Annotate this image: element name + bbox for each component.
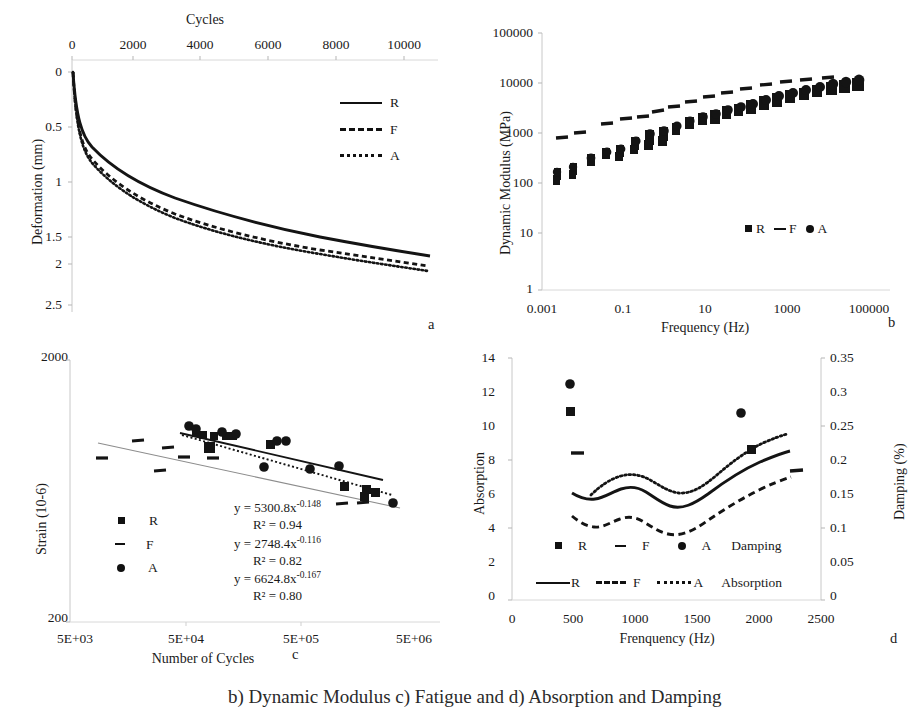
panel-a-legend-label-a: A: [390, 149, 400, 163]
panel-c-r2-1: R² = 0.94: [190, 517, 365, 534]
panel-c-equation-2-exp: -0.116: [297, 535, 321, 545]
circle-marker-icon: [117, 564, 125, 572]
panel-c-legend-label-a: A: [148, 561, 158, 575]
panel-b-letter: b: [888, 314, 895, 331]
panel-c-equation-3: y = 6624.8x-0.167: [190, 569, 365, 588]
panel-c-equation-1: y = 5300.8x-0.148: [190, 498, 365, 517]
damping-point-a-low: [565, 379, 575, 389]
dashed-line-icon: [340, 128, 382, 131]
panel-c-equation-2-text: y = 2748.4x: [234, 536, 297, 551]
panel-a-legend-label-f: F: [390, 123, 398, 137]
panel-b-legend-label-r: R: [756, 222, 765, 236]
dotted-line-icon: [340, 154, 382, 157]
panel-c-equation-3-text: y = 6624.8x: [234, 571, 297, 586]
panel-a-legend-item-f: F: [340, 123, 400, 137]
figure-caption: b) Dynamic Modulus c) Fatigue and d) Abs…: [228, 686, 721, 708]
panel-d-absorption-damping-chart: 14 12 10 8 6 4 2 0 Absorption 0.35 0.3 0…: [460, 340, 915, 698]
dashed-line-icon: [596, 581, 626, 584]
circle-marker-icon: [806, 225, 814, 233]
panel-d-damping-label-a: A: [702, 539, 712, 553]
dash-marker-icon: [774, 228, 786, 230]
panel-b-dynamic-modulus-chart: 100000 10000 1000 100 10 1 Dynamic Modul…: [460, 0, 915, 340]
panel-a-plot-svg: [0, 0, 460, 340]
panel-c-letter: c: [292, 646, 298, 663]
panel-b-legend-label-f: F: [789, 222, 797, 236]
panel-a-deformation-chart: Cycles 0 2000 4000 6000 8000 10000 0 0.5…: [0, 0, 460, 340]
panel-d-plot-svg: [460, 340, 915, 698]
panel-c-legend-item-a: A: [112, 561, 158, 575]
circle-marker-icon: [678, 542, 686, 550]
panel-a-legend-item-a: A: [340, 149, 400, 163]
panel-b-legend-row: R F A: [745, 222, 827, 236]
panel-d-legend-damping: R F A Damping: [555, 539, 782, 553]
square-marker-icon: [555, 542, 562, 549]
panel-a-legend: R F A: [340, 96, 400, 163]
panel-d-absorption-label-r: R: [571, 576, 580, 590]
panel-c-r2-3: R² = 0.80: [190, 588, 365, 605]
panel-b-legend: R F A: [745, 222, 827, 236]
panel-c-legend-label-r: R: [149, 514, 158, 528]
panel-b-legend-label-a: A: [818, 222, 828, 236]
panel-d-damping-label-f: F: [642, 539, 650, 553]
panel-c-legend-item-f: F: [112, 538, 158, 552]
panel-c-legend-label-f: F: [146, 538, 154, 552]
panel-d-legend-absorption: R F A Absorption: [536, 576, 782, 590]
dotted-line-icon: [657, 581, 691, 584]
panel-d-damping-label-r: R: [578, 539, 587, 553]
panel-a-legend-label-r: R: [390, 96, 399, 110]
panel-c-equation-2: y = 2748.4x-0.116: [190, 534, 365, 553]
panel-d-damping-legend-title: Damping: [731, 539, 781, 553]
damping-point-r-low: [566, 407, 575, 416]
panel-c-equations: y = 5300.8x-0.148 R² = 0.94 y = 2748.4x-…: [190, 498, 365, 605]
damping-point-a-high: [736, 408, 746, 418]
panel-d-absorption-legend-title: Absorption: [721, 576, 782, 590]
damping-point-r-high: [747, 445, 756, 454]
panel-d-absorption-label-a: A: [694, 576, 704, 590]
panel-c-equation-1-exp: -0.148: [297, 499, 322, 509]
panel-c-equation-1-text: y = 5300.8x: [234, 500, 297, 515]
panel-d-damping-legend-row: R F A Damping: [555, 539, 782, 553]
square-marker-icon: [118, 517, 125, 524]
panel-a-letter: a: [428, 316, 434, 333]
panel-c-fatigue-chart: 2000 200 Strain (10-6) 5E+03 5E+04 5E+05…: [0, 340, 460, 698]
panel-d-absorption-label-f: F: [633, 576, 641, 590]
solid-line-icon: [536, 582, 570, 584]
panel-d-letter: d: [890, 630, 897, 647]
panel-d-absorption-legend-row: R F A Absorption: [536, 576, 782, 590]
panel-c-legend: R F A: [112, 514, 158, 575]
panel-c-equation-3-exp: -0.167: [297, 570, 322, 580]
panel-a-legend-item-r: R: [340, 96, 400, 110]
panel-c-r2-2: R² = 0.82: [190, 553, 365, 570]
panel-c-legend-item-r: R: [112, 514, 158, 528]
dash-marker-icon: [615, 545, 626, 547]
solid-line-icon: [340, 102, 382, 104]
panel-b-plot-svg: [460, 0, 915, 340]
dash-marker-icon: [115, 543, 125, 545]
square-marker-icon: [745, 225, 752, 232]
damping-point-f-high: [790, 470, 803, 471]
